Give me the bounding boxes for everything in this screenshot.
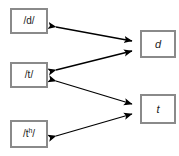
node-phoneme-t: /t/ <box>10 62 48 88</box>
edge-phoneme-t-to-phone-t <box>56 81 132 104</box>
edge-phoneme-d-to-phone-d <box>56 27 132 41</box>
node-phoneme-t-label: /t/ <box>25 70 33 80</box>
node-phoneme-th-aspirated: /th/ <box>10 120 48 148</box>
node-phoneme-th-label: /th/ <box>23 129 35 139</box>
node-phoneme-d: /d/ <box>10 8 48 34</box>
node-phone-t: t <box>140 94 176 124</box>
node-phoneme-d-label: /d/ <box>23 16 34 26</box>
node-phone-t-label: t <box>156 104 159 115</box>
node-phoneme-th-label-tail: / <box>32 128 35 139</box>
edge-phoneme-th-to-phone-t <box>56 114 132 136</box>
node-phone-d-label: d <box>155 39 161 50</box>
phoneme-phone-diagram: d --> d --> t --> t --> /d/ /t/ /th/ d t <box>0 0 179 156</box>
node-phone-d: d <box>140 30 176 58</box>
edge-phoneme-t-to-phone-d <box>56 51 132 70</box>
